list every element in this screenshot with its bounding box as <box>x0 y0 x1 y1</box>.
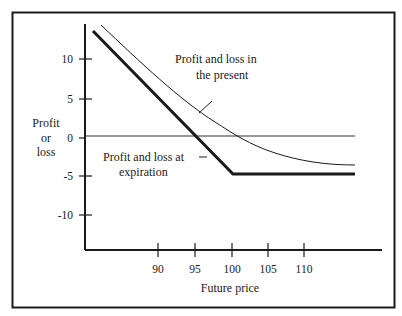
annotation-text: Profit and loss in <box>175 52 257 66</box>
y-tick-label: 0 <box>67 132 73 144</box>
y-axis-label-line: or <box>41 131 51 145</box>
y-axis-label-line: loss <box>37 145 56 159</box>
y-tick-label: 5 <box>67 93 73 105</box>
y-tick-label: -5 <box>63 170 73 182</box>
x-tick-label: 110 <box>296 263 313 275</box>
x-tick-label: 95 <box>189 263 201 275</box>
y-axis-label-line: Profit <box>32 116 60 130</box>
options-payoff-chart: 10 5 0 -5 -10 90 95 100 105 110 Future p… <box>0 0 402 316</box>
y-tick-label: 10 <box>62 53 74 65</box>
x-axis-label: Future price <box>201 281 259 295</box>
x-tick-label: 105 <box>259 263 277 275</box>
x-tick-label: 90 <box>152 263 164 275</box>
y-tick-label: -10 <box>58 209 74 221</box>
annotation-text: expiration <box>119 165 168 179</box>
x-tick-label: 100 <box>223 263 241 275</box>
annotation-text: the present <box>196 68 249 82</box>
annotation-text: Profit and loss at <box>103 150 185 164</box>
